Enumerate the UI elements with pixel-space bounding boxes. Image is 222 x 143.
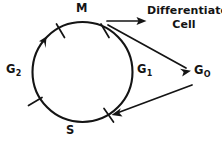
arrow-reentry-from-g0 bbox=[117, 85, 192, 113]
label-g1-letter: G bbox=[137, 62, 147, 76]
tick-s-g2-boundary bbox=[29, 98, 43, 106]
label-g1-subscript: 1 bbox=[147, 69, 153, 78]
cell-cycle-diagram: M G2 G1 GO S Differentiated Cell bbox=[0, 0, 222, 143]
label-g2-phase: G2 bbox=[6, 63, 21, 76]
label-differentiated-cell: Differentiated Cell bbox=[147, 4, 221, 32]
cell-cycle-ring bbox=[33, 22, 133, 122]
label-g0-subscript: O bbox=[204, 70, 211, 79]
label-s-phase: S bbox=[66, 124, 74, 137]
label-m-phase: M bbox=[76, 2, 88, 15]
arrowhead-g0 bbox=[180, 69, 191, 77]
label-g0-letter: G bbox=[194, 63, 204, 77]
label-g0-phase: GO bbox=[194, 64, 210, 77]
label-g2-letter: G bbox=[6, 62, 16, 76]
label-g1-phase: G1 bbox=[137, 63, 152, 76]
label-g2-subscript: 2 bbox=[16, 69, 22, 78]
tick-m-g1-boundary bbox=[101, 24, 109, 38]
